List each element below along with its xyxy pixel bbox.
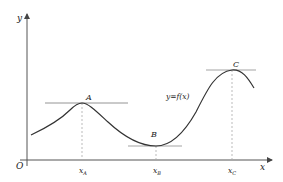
origin-label: O bbox=[16, 161, 24, 171]
y-axis-label: y bbox=[16, 13, 23, 23]
curve-label: y=f(x) bbox=[165, 92, 189, 101]
function-curve bbox=[31, 70, 254, 146]
x-c-label: xC bbox=[228, 166, 236, 176]
x-a-label: xA bbox=[79, 166, 87, 176]
function-diagram: y O x A B C y=f(x) xA xB xC bbox=[0, 0, 283, 182]
x-axis-label: x bbox=[260, 162, 265, 172]
point-a-label: A bbox=[85, 93, 92, 102]
point-b-label: B bbox=[150, 130, 157, 139]
x-b-label: xB bbox=[153, 166, 161, 176]
point-c-label: C bbox=[233, 60, 239, 69]
